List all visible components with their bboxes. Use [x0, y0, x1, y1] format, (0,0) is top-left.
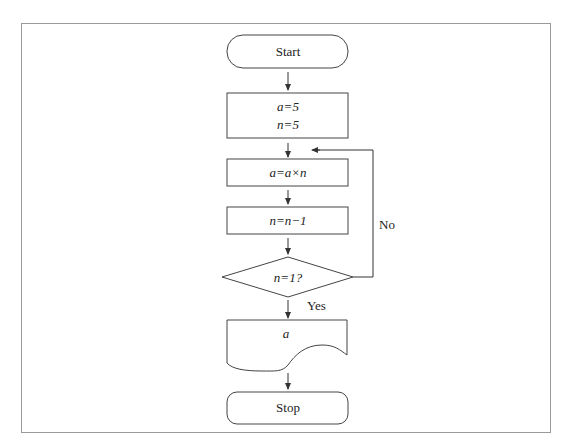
- output-label: a: [283, 326, 290, 341]
- init-process: a=5 n=5: [227, 93, 348, 138]
- yes-label: Yes: [307, 298, 326, 313]
- init-line-2: n=5: [277, 117, 299, 132]
- decision-diamond: n=1?: [222, 257, 353, 297]
- init-line-1: a=5: [277, 99, 299, 114]
- multiply-label: a=a×n: [269, 165, 306, 180]
- flowchart: Start a=5 n=5 a=a×n n=n−1 n=1? No Yes a …: [0, 0, 569, 446]
- decrement-label: n=n−1: [269, 213, 306, 228]
- decision-label: n=1?: [274, 270, 303, 285]
- stop-terminator: Stop: [227, 392, 348, 424]
- output-document: a: [227, 320, 347, 371]
- multiply-process: a=a×n: [227, 159, 348, 186]
- no-label: No: [379, 217, 395, 232]
- start-terminator: Start: [227, 35, 348, 68]
- decrement-process: n=n−1: [227, 207, 348, 234]
- stop-label: Stop: [276, 400, 300, 415]
- start-label: Start: [276, 44, 301, 59]
